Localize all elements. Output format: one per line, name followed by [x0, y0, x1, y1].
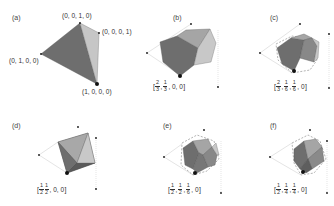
vertex-dot — [292, 69, 296, 73]
vertex-dot — [95, 82, 99, 86]
coord-label: [ 12, 14, 14 , 0 ] — [274, 183, 307, 195]
vertex-dot — [79, 22, 81, 24]
coord-label: [ 23, 13 , 0, 0 ] — [153, 80, 185, 92]
vertex-dot — [40, 53, 42, 55]
panel-d: (d) [ 12 12 , 0, 0 ] — [0, 103, 111, 206]
vertex-dot — [178, 74, 182, 78]
vertex-label-left: (0, 1, 0, 0) — [9, 57, 39, 64]
vertex-dot — [193, 171, 197, 175]
coord-label: [ 12 12 , 0, 0 ] — [37, 183, 67, 195]
vertex-dot — [98, 32, 100, 34]
panel-b: (b) [ 23, 13 , 0, 0 ] — [111, 0, 222, 103]
vertex-dot — [65, 171, 69, 175]
vertex-label-top: (0, 0, 1, 0) — [62, 12, 92, 19]
panel-a: (a) (0, 0, 1, 0) (0, 0, 0, 1) (0, 1, 0, … — [0, 0, 111, 103]
vertex-label-bottom: (1, 0, 0, 0) — [82, 88, 112, 95]
panel-f: (f) [ 12, 14, 14 , 0 ] — [222, 103, 333, 206]
coord-label: [ 12, 12, 16 , 0 ] — [168, 183, 201, 195]
polytope-e — [111, 103, 222, 206]
coord-label: [ 23, 16, 16 , 0 ] — [274, 80, 307, 92]
panel-e: (e) [ 12, 12, 16 , 0 ] — [111, 103, 222, 206]
panel-c: (c) [ 23, 16, 16 , 0 ] — [222, 0, 333, 103]
vertex-dot — [301, 170, 305, 174]
